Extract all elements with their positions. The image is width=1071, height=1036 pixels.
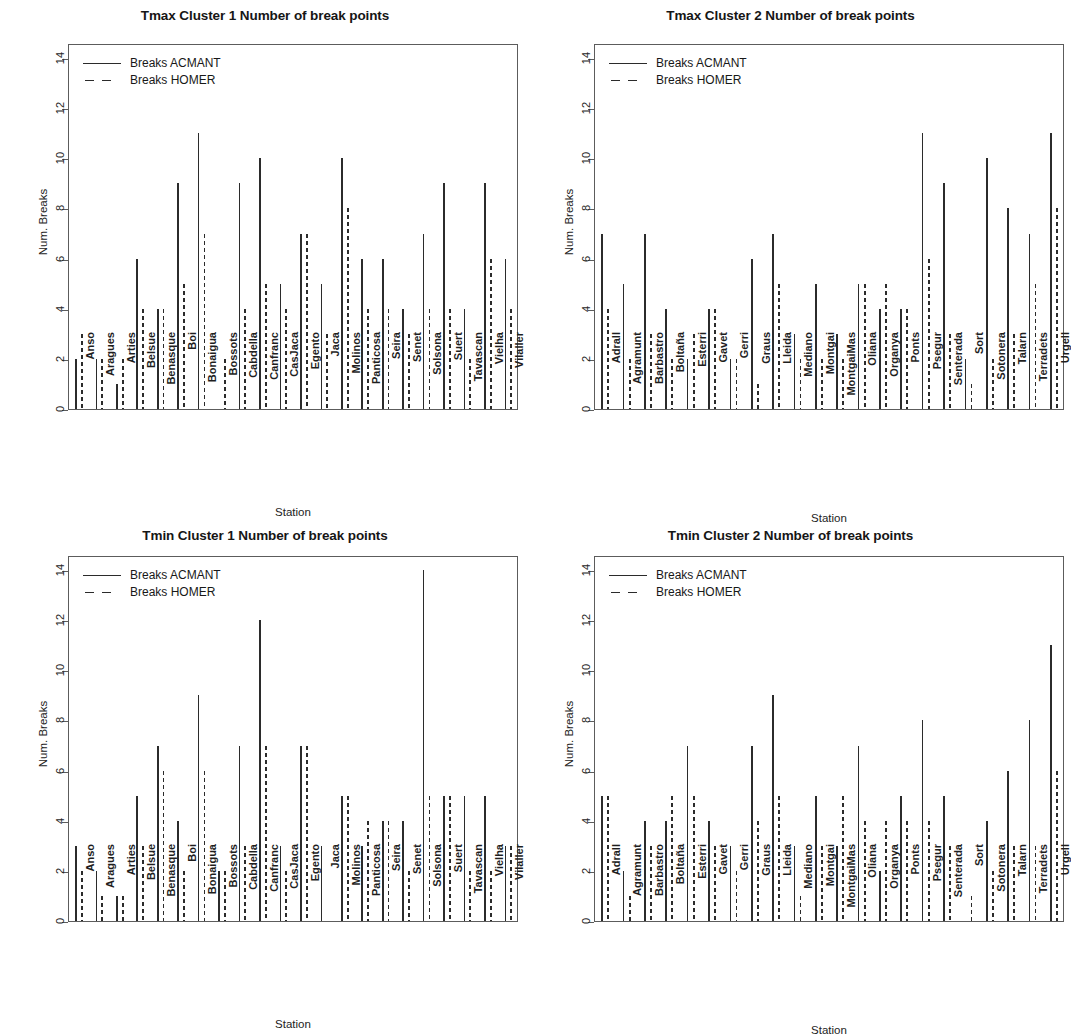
bar-acmant — [836, 334, 838, 409]
x-axis-tick-label: Lleida — [781, 332, 793, 420]
x-axis-tick-label: Talarn — [1016, 332, 1028, 420]
x-axis-tick-label: Barbastro — [653, 332, 665, 420]
x-axis-tick-label: Psegur — [931, 844, 943, 932]
bar-homer — [906, 309, 908, 409]
x-axis-tick-label: Oliana — [866, 332, 878, 420]
bar-homer — [607, 796, 609, 921]
x-axis-tick-label: Canfranc — [268, 844, 280, 932]
x-axis-tick-label: Sort — [973, 332, 985, 420]
y-axis: 02468101214 — [584, 44, 594, 410]
bar-homer — [885, 821, 887, 921]
legend-label-homer: Breaks HOMER — [656, 73, 741, 87]
bar-homer — [714, 846, 716, 921]
bar-acmant — [484, 183, 486, 409]
y-axis-tick-label: 8 — [54, 197, 66, 219]
x-axis-tick-label: Gavet — [717, 844, 729, 932]
bar-homer — [142, 309, 144, 409]
bar-acmant — [922, 720, 924, 921]
bar-homer — [757, 384, 759, 409]
x-axis-tick-label: Senet — [411, 332, 423, 420]
bar-acmant — [751, 746, 753, 921]
bar-homer — [81, 334, 83, 409]
bar-acmant — [858, 746, 860, 921]
legend-row-acmant: Breaks ACMANT — [83, 54, 221, 71]
x-axis-tick-label: CasJaca — [288, 332, 300, 420]
x-axis-tick-label: Jaca — [329, 844, 341, 932]
bar-homer — [367, 821, 369, 921]
bar-homer — [408, 334, 410, 409]
x-axis-tick-label: Mediano — [802, 844, 814, 932]
y-axis-tick-label: 4 — [580, 810, 592, 832]
x-axis-tick-label: Gerri — [738, 844, 750, 932]
y-axis-tick-label: 12 — [580, 97, 592, 119]
bar-acmant — [922, 133, 924, 409]
bar-homer — [1056, 771, 1058, 921]
legend-dashed-line-icon — [83, 75, 121, 85]
bar-acmant — [382, 259, 384, 409]
bar-acmant — [157, 746, 159, 921]
bar-acmant — [730, 846, 732, 921]
x-axis-tick-label: MontgaiMas — [845, 844, 857, 932]
x-axis-tick-label: Tavascan — [472, 332, 484, 420]
chart-panel-tmin-cluster-1: Tmin Cluster 1 Number of break points Br… — [0, 520, 530, 1028]
y-axis-tick-label: 6 — [54, 248, 66, 270]
x-axis-tick-label: Boi — [186, 844, 198, 932]
bar-homer — [326, 334, 328, 409]
x-axis-tick-label: Psegur — [931, 332, 943, 420]
bar-acmant — [218, 871, 220, 921]
bar-homer — [285, 309, 287, 409]
legend-dashed-line-icon — [609, 587, 647, 597]
legend-label-acmant: Breaks ACMANT — [656, 568, 747, 582]
legend-label-homer: Breaks HOMER — [656, 585, 741, 599]
bar-acmant — [601, 234, 603, 409]
bar-acmant — [484, 796, 486, 921]
chart-panel-tmax-cluster-1: Tmax Cluster 1 Number of break points Br… — [0, 0, 530, 520]
bar-homer — [1013, 334, 1015, 409]
x-axis-tick-label: Solsona — [431, 844, 443, 932]
x-axis-tick-label: Graus — [760, 332, 772, 420]
bar-acmant — [879, 309, 881, 409]
bar-homer — [101, 359, 103, 409]
y-axis-tick-label: 8 — [580, 197, 592, 219]
y-axis-tick-label: 14 — [580, 559, 592, 581]
bar-homer — [490, 871, 492, 921]
bar-acmant — [772, 695, 774, 921]
x-axis-tick-label: Benasque — [165, 332, 177, 420]
x-axis-tick-label: Gavet — [717, 332, 729, 420]
x-axis-tick-label: Benasque — [165, 844, 177, 932]
bar-acmant — [836, 846, 838, 921]
legend: Breaks ACMANT Breaks HOMER — [609, 54, 747, 88]
x-axis-tick-label: Vielha — [493, 332, 505, 420]
x-axis-labels: AdrallAgramuntBarbastroBoltañaEsterriGav… — [594, 416, 1064, 511]
legend-row-homer: Breaks HOMER — [83, 71, 221, 88]
bar-homer — [650, 846, 652, 921]
bar-acmant — [443, 796, 445, 921]
x-axis-tick-label: Seira — [390, 844, 402, 932]
bar-homer — [949, 846, 951, 921]
y-axis-tick-label: 2 — [54, 860, 66, 882]
x-axis-tick-label: Gerri — [738, 332, 750, 420]
bar-homer — [693, 334, 695, 409]
x-axis-tick-label: Tavascan — [472, 844, 484, 932]
chart-panel-tmin-cluster-2: Tmin Cluster 2 Number of break points Br… — [530, 520, 1057, 1028]
y-axis-tick-label: 14 — [54, 559, 66, 581]
y-axis: 02468101214 — [58, 556, 68, 922]
x-axis-tick-label: Agramunt — [631, 844, 643, 932]
x-axis-tick-label: Ponts — [909, 844, 921, 932]
y-axis-tick-label: 0 — [54, 910, 66, 932]
bar-homer — [244, 846, 246, 921]
plot-area-tmin-cluster-1: Breaks ACMANT Breaks HOMER 02468101214 N… — [68, 556, 518, 922]
y-axis-tick-label: 2 — [54, 348, 66, 370]
bar-homer — [842, 359, 844, 409]
x-axis-tick-label: Montgai — [824, 844, 836, 932]
x-axis-labels: AnsoAraguesArtiesBelsueBenasqueBoiBonaig… — [68, 416, 518, 506]
legend-solid-line-icon — [83, 570, 121, 580]
bar-homer — [183, 284, 185, 409]
x-axis-tick-label: Adrall — [610, 844, 622, 932]
bar-homer — [285, 871, 287, 921]
bar-acmant — [259, 620, 261, 921]
bar-homer — [224, 871, 226, 921]
x-axis-tick-label: Aragues — [104, 844, 116, 932]
x-axis-tick-label: Senterada — [952, 844, 964, 932]
legend-row-homer: Breaks HOMER — [609, 71, 747, 88]
